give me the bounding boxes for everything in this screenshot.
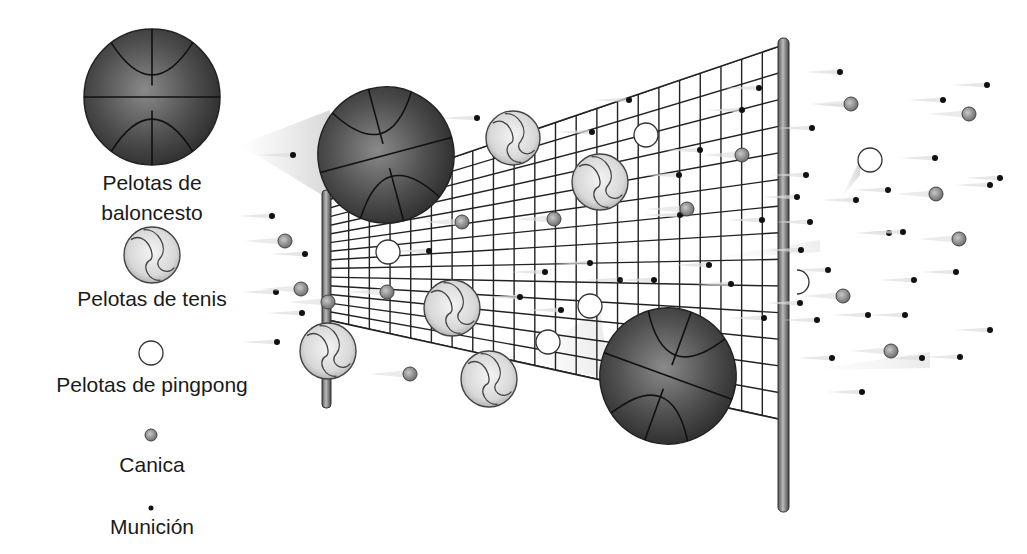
legend-label-pingpong: Pelotas de pingpong xyxy=(56,372,248,398)
legend-pingpong-icon xyxy=(139,341,163,365)
legend-label-shot: Munición xyxy=(110,514,194,540)
legend-label-tennis: Pelotas de tenis xyxy=(77,286,226,312)
legend-marble-icon xyxy=(145,429,157,441)
legend-tennis-icon xyxy=(124,227,180,283)
legend-label-marble: Canica xyxy=(119,452,184,478)
legend-basketball-icon xyxy=(84,29,220,165)
legend-label-basketball-line2: baloncesto xyxy=(101,200,203,226)
right-pole xyxy=(778,38,789,512)
legend-icons xyxy=(84,29,220,511)
legend-shot-icon xyxy=(149,506,154,511)
legend-label-basketball-line1: Pelotas de xyxy=(102,170,201,196)
